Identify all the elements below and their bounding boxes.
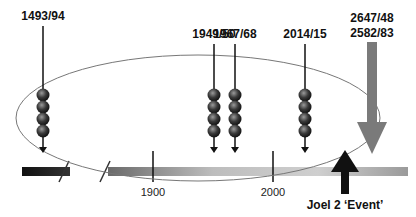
- event-sphere: [299, 125, 312, 138]
- timeline-diagram: 1900 2000 1493/94 1949/50 1967/68 2014/1…: [0, 0, 416, 217]
- future-label-line1: 2647/48: [350, 11, 394, 25]
- event-arrow-head: [331, 150, 359, 172]
- event-sphere: [208, 101, 221, 114]
- event-sphere: [37, 89, 50, 102]
- event-arrow-down-icon: [210, 147, 218, 153]
- event-sphere: [208, 113, 221, 126]
- event-sphere: [229, 89, 242, 102]
- event-sphere: [37, 113, 50, 126]
- event-sphere: [208, 89, 221, 102]
- event-sphere: [208, 125, 221, 138]
- axis-tick-label: 2000: [261, 186, 285, 198]
- event-sphere: [229, 125, 242, 138]
- event-sphere: [299, 89, 312, 102]
- event-sphere: [229, 101, 242, 114]
- event-sphere: [299, 113, 312, 126]
- event-arrow-down-icon: [301, 147, 309, 153]
- event-arrow-shaft: [341, 172, 349, 194]
- event-sphere: [299, 101, 312, 114]
- event-label: 1493/94: [21, 9, 65, 23]
- event-label: 2014/15: [283, 27, 327, 41]
- future-arrow-shaft: [367, 42, 377, 122]
- event-sphere: [37, 125, 50, 138]
- future-label-line2: 2582/83: [350, 26, 394, 40]
- event-arrow-down-icon: [231, 147, 239, 153]
- event-sphere: [229, 113, 242, 126]
- highlight-ellipse: [16, 55, 380, 181]
- axis-tick-label: 1900: [141, 186, 165, 198]
- event-label: 1967/68: [213, 27, 257, 41]
- future-arrow-head: [357, 122, 387, 154]
- event-marker-label: Joel 2 ‘Event’: [307, 198, 384, 212]
- event-sphere: [37, 101, 50, 114]
